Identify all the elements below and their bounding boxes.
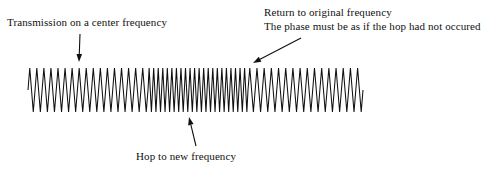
label-transmission-on-center-frequency: Transmission on a center frequency [7,16,167,29]
hop-arrow [188,117,196,146]
label-phase-must-be-as-if-hop-had-not-occured: The phase must be as if the hop had not … [264,20,481,33]
waveform-segment-hopped [148,68,248,112]
return-arrow-head [253,57,261,63]
waveform-segment-center-after [248,68,363,112]
frequency-hop-figure: Transmission on a center frequency Retur… [0,0,487,181]
label-return-to-original-frequency: Return to original frequency [264,6,392,19]
waveform-segment-center-before [28,68,148,112]
hop-arrow-head [188,117,193,125]
label-hop-to-new-frequency: Hop to new frequency [136,150,236,163]
return-arrow [253,38,301,63]
transmission-arrow [76,34,82,62]
hop-arrow-shaft [191,125,196,146]
transmission-arrow-shaft [79,34,80,54]
return-arrow-shaft [260,38,301,59]
transmission-arrow-head [76,54,82,62]
